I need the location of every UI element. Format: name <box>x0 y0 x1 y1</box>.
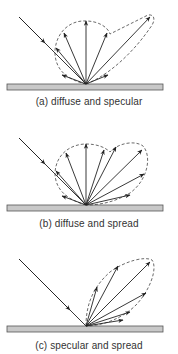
surface <box>7 84 163 90</box>
surface <box>7 326 163 332</box>
reflection-diagram-c <box>0 236 178 354</box>
panel-specular-and-spread: (c) specular and spread <box>0 236 178 354</box>
diffuse-envelope <box>55 15 154 84</box>
reflected-rays <box>56 144 144 205</box>
caption-b: (b) diffuse and spread <box>0 218 178 229</box>
reflected-rays <box>86 262 150 326</box>
caption-c: (c) specular and spread <box>0 340 178 351</box>
caption-a: (a) diffuse and specular <box>0 96 178 107</box>
diffuse-envelope <box>55 143 148 205</box>
reflected-rays <box>56 17 150 84</box>
panel-diffuse-and-spread: (b) diffuse and spread <box>0 118 178 236</box>
surface <box>7 205 163 211</box>
panel-diffuse-and-specular: (a) diffuse and specular <box>0 0 178 118</box>
